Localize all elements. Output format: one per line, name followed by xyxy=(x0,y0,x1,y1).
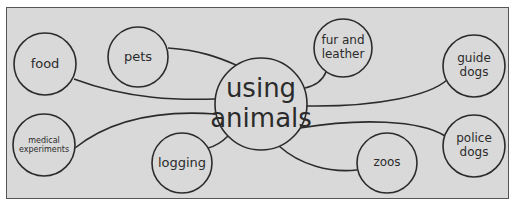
node-label-line: experiments xyxy=(19,145,69,154)
node-label-line: dogs xyxy=(456,146,492,160)
node-label-line: medical xyxy=(19,136,69,145)
node-label-line: leather xyxy=(321,48,364,62)
node-label-line: dogs xyxy=(457,66,491,80)
node-label-medical-experiments: medicalexperiments xyxy=(19,136,69,154)
node-label-pets: pets xyxy=(124,50,152,65)
node-label-food: food xyxy=(31,57,60,72)
node-label-line: food xyxy=(31,57,60,72)
node-label-line: animals xyxy=(210,104,312,134)
node-label-logging: logging xyxy=(158,156,206,171)
node-label-line: police xyxy=(456,132,492,146)
connector-police-dogs xyxy=(300,122,445,136)
node-label-line: guide xyxy=(457,52,491,66)
node-label-line: logging xyxy=(158,156,206,171)
node-label-zoos: zoos xyxy=(373,156,400,170)
connector-guide-dogs xyxy=(307,80,447,106)
node-label-using-animals: usinganimals xyxy=(210,74,312,134)
node-label-line: zoos xyxy=(373,156,400,170)
connector-pets xyxy=(168,48,236,65)
connector-logging xyxy=(208,136,228,148)
node-label-line: fur and xyxy=(321,34,364,48)
node-label-line: pets xyxy=(124,50,152,65)
node-label-police-dogs: policedogs xyxy=(456,132,492,160)
node-label-guide-dogs: guidedogs xyxy=(457,52,491,80)
connector-zoos xyxy=(279,146,357,171)
node-label-fur-and-leather: fur andleather xyxy=(321,34,364,62)
node-label-line: using xyxy=(210,74,312,104)
